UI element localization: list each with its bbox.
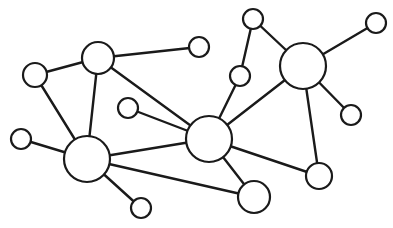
node-n6	[64, 136, 110, 182]
node-n13	[230, 66, 250, 86]
network-diagram	[0, 0, 393, 228]
node-n3	[189, 37, 209, 57]
node-n12	[243, 9, 263, 29]
node-n7	[186, 116, 232, 162]
node-n10	[306, 163, 332, 189]
node-n4	[118, 98, 138, 118]
node-n11	[280, 43, 326, 89]
node-n2	[23, 63, 47, 87]
node-n8	[131, 198, 151, 218]
nodes-layer	[11, 9, 386, 218]
node-n1	[82, 42, 114, 74]
node-n15	[341, 105, 361, 125]
node-n5	[11, 129, 31, 149]
node-n14	[366, 13, 386, 33]
node-n9	[238, 181, 270, 213]
